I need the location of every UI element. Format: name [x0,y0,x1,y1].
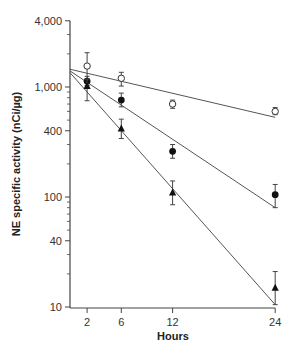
y-tick-label: 10 [50,301,62,313]
chart: 10401004001,0004,000261224 Hours NE spec… [0,0,293,355]
filled-circle-marker [169,148,176,155]
x-tick-label: 6 [118,316,124,328]
open-circle-marker [169,101,175,107]
y-tick-label: 400 [44,125,62,137]
open-circle-marker [84,63,90,69]
y-axis-title: NE specific activity (nCi/µg) [10,91,22,236]
open-circle-marker [272,108,278,114]
x-axis-title: Hours [157,330,189,342]
x-tick-label: 12 [166,316,178,328]
y-tick-label: 1,000 [34,81,62,93]
fit-line [70,69,275,117]
filled-triangle-marker [272,284,279,291]
y-tick-label: 4,000 [34,15,62,27]
y-tick-label: 100 [44,191,62,203]
open-circle-marker [118,75,124,81]
filled-circle-marker [118,97,125,104]
x-tick-label: 2 [84,316,90,328]
data-points [84,53,279,305]
filled-circle-marker [272,191,279,198]
x-tick-label: 24 [269,316,281,328]
y-tick-label: 40 [50,235,62,247]
